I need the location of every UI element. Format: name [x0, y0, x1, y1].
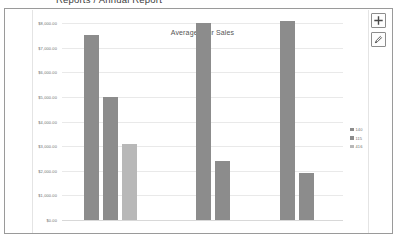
chart-panel: Average Tour Sales $0.00$1,000.00$2,000.…	[4, 8, 393, 234]
bar[interactable]	[215, 161, 230, 220]
bar[interactable]	[196, 23, 211, 220]
bar[interactable]	[122, 144, 137, 220]
legend-label: 140	[356, 127, 363, 132]
bars-layer	[62, 23, 343, 220]
legend-label: 416	[356, 144, 363, 149]
legend-swatch	[350, 136, 354, 140]
legend-item[interactable]: 416	[350, 144, 362, 149]
y-axis-tick-label: $6,000.00	[38, 70, 57, 75]
legend-swatch	[350, 145, 354, 149]
pencil-icon	[374, 35, 383, 44]
add-button[interactable]	[371, 13, 386, 28]
edit-button[interactable]	[371, 32, 386, 47]
legend-item[interactable]: 140	[350, 127, 362, 132]
report-header-strip: Reports / Annual Report	[0, 0, 397, 7]
y-axis-tick-label: $7,000.00	[38, 45, 57, 50]
plus-icon	[374, 16, 383, 25]
bar[interactable]	[103, 97, 118, 220]
gridline: $0.00	[62, 220, 343, 221]
y-axis-tick-label: $2,000.00	[38, 168, 57, 173]
y-axis-tick-label: $5,000.00	[38, 94, 57, 99]
legend-item[interactable]: 115	[350, 136, 362, 141]
y-axis-tick-label: $8,000.00	[38, 21, 57, 26]
chart-controls	[371, 13, 386, 47]
chart-legend: 140115416	[350, 127, 362, 149]
plot-area: Average Tour Sales $0.00$1,000.00$2,000.…	[62, 23, 343, 220]
y-axis-tick-label: $1,000.00	[38, 193, 57, 198]
report-page: Reports / Annual Report	[0, 0, 397, 241]
y-axis-tick-label: $4,000.00	[38, 119, 57, 124]
legend-label: 115	[356, 136, 363, 141]
report-header-title: Reports / Annual Report	[56, 0, 162, 5]
y-axis-tick-label: $0.00	[46, 218, 57, 223]
legend-swatch	[350, 128, 354, 132]
bar[interactable]	[84, 35, 99, 220]
y-axis-tick-label: $3,000.00	[38, 144, 57, 149]
bar[interactable]	[280, 21, 295, 220]
bar[interactable]	[299, 173, 314, 220]
